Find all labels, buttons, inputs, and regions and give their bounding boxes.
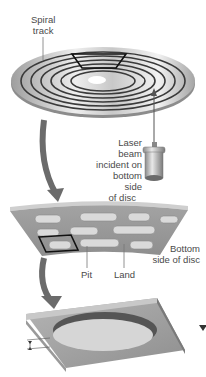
label-line: Spiral — [31, 14, 55, 25]
label-line: track — [31, 25, 55, 36]
pit — [70, 227, 98, 235]
spiral-track-label: Spiral track — [31, 14, 55, 36]
label-line: incident on — [95, 159, 142, 170]
pit — [37, 229, 59, 236]
bottom-side-label: Bottom side of disc — [148, 243, 200, 265]
continue-triangle-icon — [199, 325, 206, 331]
pit — [35, 215, 61, 223]
pit-floor — [53, 319, 153, 351]
pit — [49, 241, 71, 249]
land-label: Land — [114, 269, 135, 280]
label-line: Laser beam — [95, 137, 142, 159]
laser-device — [143, 142, 165, 181]
label-line: bottom side — [95, 170, 142, 192]
pit — [80, 213, 117, 221]
pit — [80, 239, 119, 247]
compact-disc — [11, 47, 195, 118]
curved-arrow-1 — [43, 120, 56, 194]
pit — [128, 213, 150, 221]
laser-beam-label: Laser beam incident on bottom side of di… — [95, 137, 142, 203]
pit-closeup — [26, 298, 185, 372]
center-hole — [88, 76, 106, 84]
pit — [113, 226, 155, 234]
pit-label: Pit — [81, 269, 92, 280]
label-line: of disc — [95, 192, 142, 203]
label-line: side of disc — [148, 254, 200, 265]
label-line: Bottom — [148, 243, 200, 254]
pit — [160, 216, 178, 223]
curved-arrow-2 — [42, 258, 52, 302]
